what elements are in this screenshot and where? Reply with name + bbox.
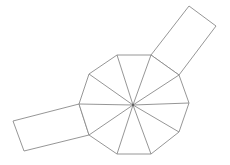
net-diagram <box>0 0 230 165</box>
center-point <box>132 104 134 106</box>
lower-left-rectangle <box>13 104 89 151</box>
